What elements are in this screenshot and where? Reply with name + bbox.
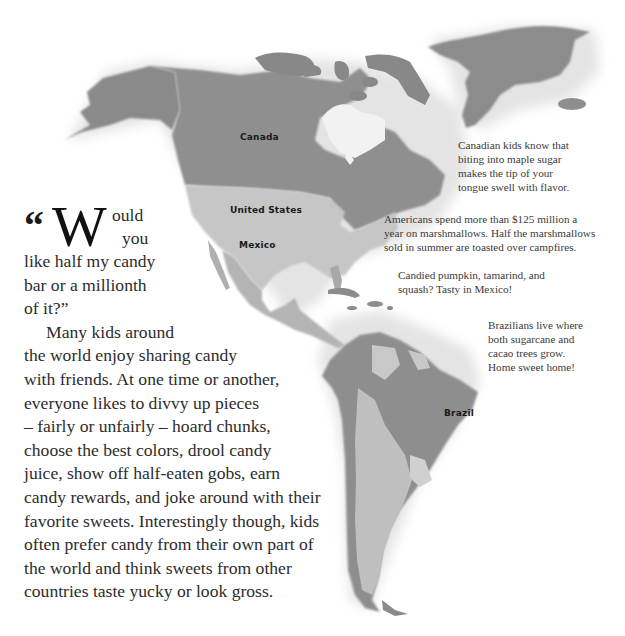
paragraph-line: juice, show off half-eaten gobs, earn	[24, 462, 344, 486]
paragraph-line: countries taste yucky or look gross.	[24, 580, 344, 604]
label-brazil: Brazil	[444, 408, 474, 418]
paragraph-line: favorite sweets. Interestingly though, k…	[24, 510, 344, 534]
paragraph-line: choose the best colors, drool candy	[24, 439, 344, 463]
label-canada: Canada	[240, 132, 279, 142]
iceland-shape	[558, 98, 586, 110]
drop-cap: W	[52, 198, 107, 256]
paragraph-line: the world enjoy sharing candy	[24, 344, 344, 368]
tierra-del-fuego	[382, 600, 408, 616]
note-mexico: Candied pumpkin, tamarind, and squash? T…	[398, 268, 545, 296]
drop-cap-row: “ W ould you	[24, 202, 344, 250]
paragraph-line: candy rewards, and joke around with thei…	[24, 486, 344, 510]
paragraph-line: everyone likes to divvy up pieces	[24, 392, 344, 416]
drop-cap-continuation: ould	[112, 204, 143, 228]
note-brazil: Brazilians live where both sugarcane and…	[488, 318, 583, 374]
paragraph-line: with friends. At one time or another,	[24, 368, 344, 392]
paragraph-line: Many kids around	[24, 321, 344, 345]
note-usa: Americans spend more than $125 million a…	[384, 212, 595, 254]
note-canada: Canadian kids know that biting into mapl…	[458, 138, 569, 194]
quote-line: bar or a millionth	[24, 274, 344, 298]
paragraph-line: – fairly or unfairly – hoard chunks,	[24, 415, 344, 439]
drop-cap-continuation-2: you	[122, 227, 148, 251]
opening-quote-mark: “	[24, 206, 44, 246]
paragraph-line: the world and think sweets from other	[24, 557, 344, 581]
quote-line: of it?”	[24, 297, 344, 321]
paragraph-line: often prefer candy from their own part o…	[24, 533, 344, 557]
main-text: “ W ould you like half my candy bar or a…	[24, 202, 344, 604]
